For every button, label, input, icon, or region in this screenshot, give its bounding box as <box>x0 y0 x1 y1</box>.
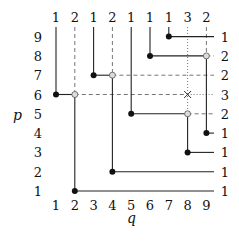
y-tick-label: 8 <box>34 49 42 64</box>
filled-point <box>166 34 172 40</box>
right-label: 2 <box>221 68 229 83</box>
right-label: 1 <box>221 165 229 180</box>
right-label: 1 <box>221 30 229 45</box>
top-label: 1 <box>89 10 97 25</box>
filled-point <box>203 130 209 136</box>
right-label: 3 <box>221 88 229 103</box>
hollow-point <box>109 72 115 78</box>
filled-point <box>109 169 115 175</box>
x-tick-label: 1 <box>52 198 60 213</box>
y-tick-label: 1 <box>34 184 42 199</box>
y-tick-label: 3 <box>34 145 42 160</box>
top-label: 2 <box>71 10 79 25</box>
right-label: 2 <box>221 107 229 122</box>
right-label: 2 <box>221 49 229 64</box>
filled-point <box>72 188 78 194</box>
top-label: 1 <box>52 10 60 25</box>
x-tick-label: 8 <box>183 198 191 213</box>
x-tick-label: 7 <box>165 198 173 213</box>
hollow-point <box>72 92 78 98</box>
filled-point <box>147 53 153 59</box>
hollow-point <box>185 111 191 117</box>
top-label: 2 <box>108 10 116 25</box>
x-tick-label: 3 <box>89 198 97 213</box>
filled-point <box>91 72 97 78</box>
right-label: 1 <box>221 145 229 160</box>
y-tick-label: 6 <box>34 88 42 103</box>
grid-diagram: 121211132122321111987654321123456789 p q <box>0 0 239 241</box>
lines-layer <box>56 27 214 191</box>
filled-point <box>53 92 59 98</box>
top-label: 1 <box>127 10 135 25</box>
x-tick-label: 2 <box>71 198 79 213</box>
filled-point <box>128 111 134 117</box>
x-tick-label: 4 <box>108 198 116 213</box>
hollow-point <box>203 53 209 59</box>
y-tick-label: 9 <box>34 30 42 45</box>
top-label: 3 <box>183 10 191 25</box>
top-label: 1 <box>146 10 154 25</box>
y-axis-label: p <box>13 107 22 123</box>
x-tick-label: 9 <box>202 198 210 213</box>
y-tick-label: 4 <box>34 126 42 141</box>
right-label: 1 <box>221 184 229 199</box>
y-tick-label: 2 <box>34 165 42 180</box>
top-label: 2 <box>202 10 210 25</box>
y-tick-label: 7 <box>34 68 42 83</box>
right-label: 1 <box>221 126 229 141</box>
x-tick-label: 6 <box>146 198 154 213</box>
x-axis-label: q <box>127 210 136 226</box>
top-label: 1 <box>165 10 173 25</box>
filled-point <box>185 149 191 155</box>
y-tick-label: 5 <box>34 107 42 122</box>
